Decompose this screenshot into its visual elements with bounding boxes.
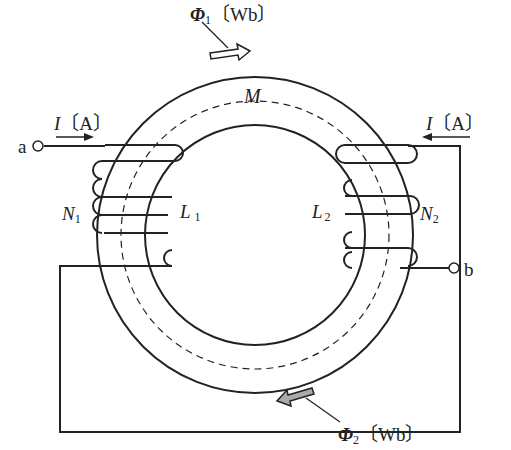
N1-label: N1	[61, 203, 81, 226]
phi2-leader-line	[306, 398, 340, 422]
L1-label: L1	[179, 201, 201, 224]
N2-label: N2	[419, 203, 439, 226]
coil-N1	[93, 145, 183, 266]
L2-label: L2	[311, 201, 331, 224]
current-right-arrow	[422, 133, 470, 141]
terminal-b-label: b	[464, 259, 474, 280]
terminal-b[interactable]	[449, 263, 459, 273]
flux-path-dashed	[121, 101, 389, 369]
core-inner-edge	[145, 125, 365, 345]
terminal-a-label: a	[18, 136, 27, 157]
terminal-a[interactable]	[33, 141, 43, 151]
phi2-label: Φ2〔Wb〕	[338, 424, 424, 447]
current-left-label: I〔A〕	[53, 113, 112, 134]
current-left-arrow	[56, 133, 94, 141]
coil-N2	[336, 145, 450, 268]
toroidal-coupled-coils-diagram: Φ1〔Wb〕 M I〔A〕 I〔A〕 a b N1 L1 L2 N2 Φ2〔Wb…	[0, 0, 511, 450]
current-right-label: I〔A〕	[425, 113, 484, 134]
mutual-inductance-label: M	[243, 85, 262, 107]
flux-phi1-arrow	[210, 44, 250, 60]
phi1-label: Φ1〔Wb〕	[190, 4, 276, 27]
